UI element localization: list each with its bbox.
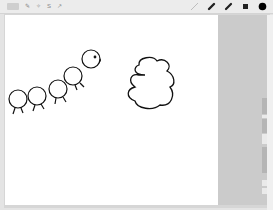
caterpillar (9, 50, 100, 114)
brush-size-slider[interactable] (262, 98, 267, 114)
modify-button[interactable] (262, 134, 267, 144)
toolbar-right-group (190, 2, 267, 11)
top-toolbar: Gallery ✎ ✧ S ↗ (0, 0, 273, 14)
toolbar-left-group: Gallery ✎ ✧ S ↗ (7, 3, 62, 10)
color-swatch[interactable] (258, 2, 267, 11)
eraser-icon[interactable] (224, 2, 233, 11)
opacity-slider[interactable] (262, 147, 267, 173)
side-panel (218, 15, 267, 205)
gallery-button[interactable]: Gallery (7, 3, 19, 10)
brush-icon[interactable] (190, 2, 199, 11)
cloud-shape (128, 58, 174, 109)
slider-separator (262, 115, 267, 118)
canvas-drawings (5, 15, 218, 205)
wrench-icon[interactable]: ✎ (25, 3, 30, 10)
redo-button[interactable] (262, 188, 267, 194)
sidebar-edge (267, 15, 273, 210)
smudge-icon[interactable] (207, 2, 216, 11)
brush-size-slider-track[interactable] (262, 119, 267, 133)
magic-wand-icon[interactable]: ✧ (36, 3, 41, 10)
selection-icon[interactable]: S (47, 3, 51, 10)
transform-arrow-icon[interactable]: ↗ (57, 3, 62, 10)
undo-button[interactable] (262, 180, 267, 186)
layers-icon[interactable] (241, 2, 250, 11)
